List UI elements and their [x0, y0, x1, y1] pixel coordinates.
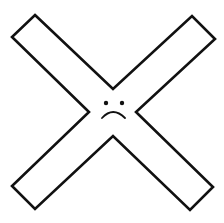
sad-cross-graphic: [0, 0, 224, 223]
left-eye: [104, 101, 108, 105]
right-eye: [120, 101, 124, 105]
